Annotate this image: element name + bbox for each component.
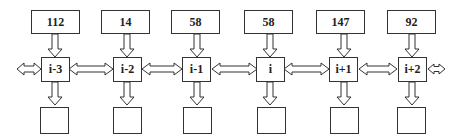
output-box-i-1 bbox=[183, 107, 212, 134]
double-arrow-icon bbox=[17, 63, 41, 75]
input-arrow-icon bbox=[48, 34, 62, 57]
output-box-i+1 bbox=[330, 107, 359, 134]
input-value: 14 bbox=[120, 15, 132, 30]
node-i-1: i-1 bbox=[182, 57, 211, 82]
node-i-2: i-2 bbox=[113, 57, 142, 82]
input-arrow-icon bbox=[263, 34, 277, 57]
node-i-3: i-3 bbox=[41, 57, 70, 82]
output-box-i-2 bbox=[113, 107, 142, 134]
input-arrow-icon bbox=[337, 34, 351, 57]
double-arrow-icon bbox=[142, 63, 182, 75]
double-arrow-icon bbox=[428, 64, 445, 74]
input-value: 58 bbox=[190, 15, 202, 30]
node-label: i-3 bbox=[49, 62, 62, 77]
input-box-i+2: 92 bbox=[387, 10, 436, 34]
input-box-i-1: 58 bbox=[171, 10, 220, 34]
double-arrow-icon bbox=[359, 63, 397, 75]
double-arrow-icon bbox=[69, 63, 113, 75]
node-i: i bbox=[256, 57, 285, 82]
input-value: 112 bbox=[47, 15, 64, 30]
output-box-i-3 bbox=[40, 107, 69, 134]
output-arrow-icon bbox=[48, 82, 62, 105]
output-box-i+2 bbox=[397, 107, 426, 134]
node-i+2: i+2 bbox=[398, 57, 427, 82]
output-arrow-icon bbox=[190, 82, 204, 105]
double-arrow-icon bbox=[212, 63, 257, 75]
input-box-i-2: 14 bbox=[101, 10, 150, 34]
double-arrow-icon bbox=[284, 63, 329, 75]
node-label: i-2 bbox=[121, 62, 134, 77]
input-box-i-3: 112 bbox=[31, 10, 80, 34]
node-label: i+2 bbox=[404, 62, 420, 77]
output-box-i bbox=[257, 107, 286, 134]
output-arrow-icon bbox=[337, 82, 351, 105]
output-arrow-icon bbox=[120, 82, 134, 105]
output-arrow-icon bbox=[263, 82, 277, 105]
node-label: i-1 bbox=[190, 62, 203, 77]
node-label: i+1 bbox=[335, 62, 351, 77]
input-box-i: 58 bbox=[244, 10, 293, 34]
node-label: i bbox=[269, 62, 272, 77]
input-arrow-icon bbox=[120, 34, 134, 57]
input-value: 92 bbox=[406, 15, 418, 30]
input-value: 147 bbox=[332, 15, 350, 30]
input-arrow-icon bbox=[405, 34, 419, 57]
input-value: 58 bbox=[263, 15, 275, 30]
input-box-i+1: 147 bbox=[316, 10, 365, 34]
input-arrow-icon bbox=[190, 34, 204, 57]
node-i+1: i+1 bbox=[329, 57, 358, 82]
output-arrow-icon bbox=[405, 82, 419, 105]
